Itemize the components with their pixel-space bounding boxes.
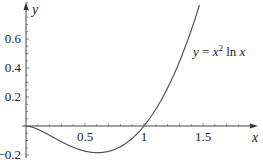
- y-tick-label: 0.6: [5, 31, 22, 46]
- x-tick-label: 0.5: [77, 129, 93, 144]
- y-tick-label: 0.4: [5, 60, 22, 75]
- y-axis-arrow-icon: [24, 2, 29, 10]
- y-tick-label: −0.2: [0, 147, 21, 160]
- function-annotation: y = x2 ln x: [191, 43, 246, 59]
- x-axis-arrow-icon: [250, 124, 258, 129]
- function-curve: [26, 5, 199, 152]
- x-axis-label: x: [251, 130, 259, 145]
- x-tick-label: 1: [141, 129, 148, 144]
- y-axis-label: y: [30, 2, 39, 17]
- x-tick-label: 1.5: [195, 129, 211, 144]
- ticks: 0.511.5−0.20.20.40.6: [0, 3, 250, 160]
- chart-svg: 0.511.5−0.20.20.40.6 x y y = x2 ln x: [0, 0, 263, 160]
- y-tick-label: 0.2: [5, 89, 21, 104]
